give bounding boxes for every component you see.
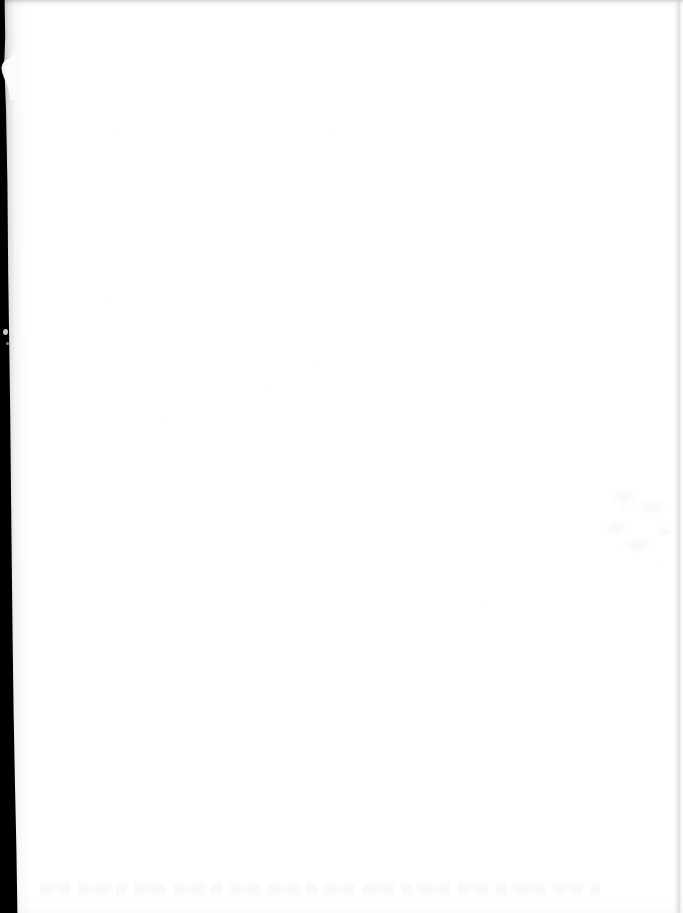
dust-speck (313, 363, 315, 365)
dust-speck (332, 131, 334, 133)
paper-field (0, 0, 683, 913)
bleed-through-text-band (40, 880, 600, 897)
dust-speck (105, 298, 107, 300)
dust-speck (646, 535, 649, 538)
dust-speck (621, 509, 624, 512)
top-edge-shadow (0, 0, 683, 9)
dust-speck (267, 387, 269, 389)
right-edge-line (674, 0, 683, 913)
dust-speck (164, 420, 166, 422)
dust-speck (114, 131, 116, 133)
scanned-page (0, 0, 683, 913)
bleed-through-smudge (596, 478, 680, 564)
dust-speck (659, 562, 661, 564)
paper-speck-secondary (6, 342, 9, 345)
dust-speck (483, 604, 485, 606)
